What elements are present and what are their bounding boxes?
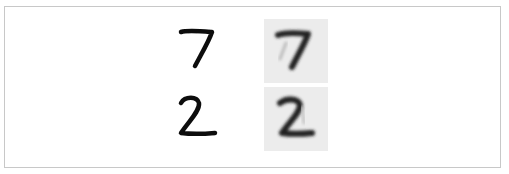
reconstructed-digit-2 — [264, 87, 328, 151]
original-digit-7 — [167, 19, 231, 83]
digit-7-glyph — [167, 19, 231, 83]
original-digit-2 — [167, 87, 231, 151]
figure-frame — [4, 6, 501, 168]
reconstructed-digit-7 — [264, 19, 328, 83]
digit-2-reconstruction-glyph — [264, 87, 328, 151]
digit-2-glyph — [167, 87, 231, 151]
digit-7-reconstruction-glyph — [264, 19, 328, 83]
